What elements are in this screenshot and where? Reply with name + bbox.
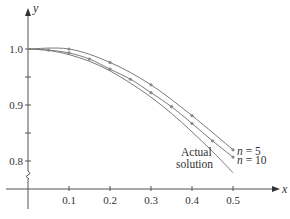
data-point-marker bbox=[170, 105, 173, 108]
data-point-marker bbox=[231, 155, 234, 158]
x-tick-label: 0.5 bbox=[226, 194, 240, 206]
euler-approximation-chart: 0.10.20.30.40.50.80.91.0 y x n = 5 n = 1… bbox=[0, 0, 290, 219]
y-axis-arrow-icon bbox=[25, 8, 31, 16]
data-point-marker bbox=[149, 83, 152, 86]
y-tick-label: 0.8 bbox=[9, 155, 23, 167]
x-tick-label: 0.3 bbox=[144, 194, 158, 206]
x-tick-label: 0.4 bbox=[185, 194, 199, 206]
y-axis-label: y bbox=[32, 1, 39, 15]
axes: 0.10.20.30.40.50.80.91.0 bbox=[6, 8, 280, 209]
data-point-marker bbox=[149, 91, 152, 94]
x-axis-arrow-icon bbox=[272, 186, 280, 192]
data-point-marker bbox=[88, 57, 91, 60]
data-point-marker bbox=[190, 122, 193, 125]
actual-solution-label-line2: solution bbox=[176, 158, 213, 170]
data-point-marker bbox=[108, 61, 111, 64]
data-point-marker bbox=[67, 47, 70, 50]
data-point-marker bbox=[129, 78, 132, 81]
x-axis-label: x bbox=[281, 182, 288, 196]
y-tick-label: 1.0 bbox=[9, 43, 23, 55]
y-tick-label: 0.9 bbox=[9, 99, 23, 111]
curve-n-5 bbox=[28, 48, 233, 150]
x-tick-label: 0.1 bbox=[62, 194, 76, 206]
axis-break-icon bbox=[26, 171, 30, 179]
n10-label: n = 10 bbox=[237, 154, 267, 166]
data-point-marker bbox=[211, 139, 214, 142]
x-tick-label: 0.2 bbox=[103, 194, 117, 206]
actual-solution-label-line1: Actual bbox=[181, 146, 212, 158]
data-point-marker bbox=[231, 148, 234, 151]
data-point-marker bbox=[190, 114, 193, 117]
